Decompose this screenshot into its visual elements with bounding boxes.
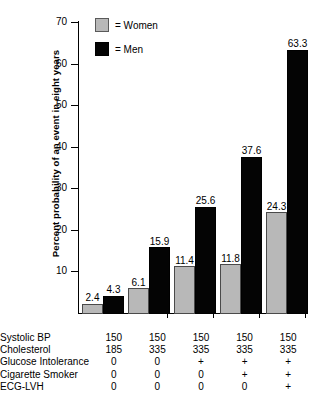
bar-chart: Percent probability of an event in eight… (0, 0, 310, 330)
y-tick-10 (71, 271, 78, 272)
row-label-systolic-bp: Systolic BP (0, 332, 92, 344)
y-tick-label-10: 10 (43, 266, 67, 276)
legend-label-men: = Men (115, 44, 143, 55)
cell-cholesterol-2: 335 (136, 344, 180, 356)
bar-women-4 (220, 264, 241, 313)
y-tick-label-70: 70 (43, 17, 67, 27)
bar-label-men-5: 63.3 (280, 38, 310, 49)
x-tick-4 (305, 314, 306, 318)
cell-systolic-bp-1: 150 (92, 332, 136, 344)
bar-men-1 (103, 296, 124, 314)
cell-cholesterol-5: 335 (266, 344, 310, 356)
cell-cigarette-smoker-3: 0 (179, 369, 223, 381)
cell-glucose-intolerance-5: + (266, 356, 310, 368)
bar-women-1 (82, 304, 103, 314)
x-tick-1 (167, 314, 168, 318)
x-tick-3 (259, 314, 260, 318)
bar-women-5 (266, 212, 287, 313)
y-tick-70 (71, 22, 78, 23)
bar-women-2 (128, 288, 149, 313)
table-row: ECG-LVH 0 0 0 0 + (0, 381, 310, 393)
y-tick-50 (71, 105, 78, 106)
cell-glucose-intolerance-1: 0 (92, 356, 136, 368)
cell-glucose-intolerance-3: + (179, 356, 223, 368)
cell-cholesterol-4: 335 (223, 344, 267, 356)
y-tick-label-40: 40 (43, 142, 67, 152)
row-label-glucose-intolerance: Glucose Intolerance (0, 356, 92, 368)
cell-systolic-bp-4: 150 (223, 332, 267, 344)
men-swatch-icon (95, 42, 109, 56)
cell-ecg-lvh-3: 0 (179, 381, 223, 393)
cell-glucose-intolerance-2: 0 (136, 356, 180, 368)
cell-cholesterol-3: 335 (179, 344, 223, 356)
y-tick-label-50: 50 (43, 100, 67, 110)
women-swatch-icon (95, 18, 109, 32)
cell-ecg-lvh-2: 0 (136, 381, 180, 393)
cell-cholesterol-1: 185 (92, 344, 136, 356)
bar-label-men-3: 25.6 (188, 195, 223, 206)
legend: = Women = Men (95, 18, 158, 66)
bar-label-men-4: 37.6 (234, 145, 269, 156)
y-tick-20 (71, 230, 78, 231)
cell-cigarette-smoker-1: 0 (92, 369, 136, 381)
row-label-cholesterol: Cholesterol (0, 344, 92, 356)
table-row: Glucose Intolerance 0 0 + + + (0, 356, 310, 368)
x-tick-2 (213, 314, 214, 318)
cell-systolic-bp-2: 150 (136, 332, 180, 344)
cell-systolic-bp-5: 150 (266, 332, 310, 344)
legend-item-women: = Women (95, 18, 158, 32)
cell-cigarette-smoker-4: + (223, 369, 267, 381)
row-label-cigarette-smoker: Cigarette Smoker (0, 369, 92, 381)
y-tick-label-20: 20 (43, 225, 67, 235)
y-tick-40 (71, 147, 78, 148)
y-tick-30 (71, 188, 78, 189)
bar-women-3 (174, 266, 195, 314)
y-tick-label-30: 30 (43, 183, 67, 193)
bar-label-men-2: 15.9 (142, 236, 177, 247)
cell-cigarette-smoker-5: + (266, 369, 310, 381)
cell-ecg-lvh-4: 0 (223, 381, 267, 393)
table-row: Cholesterol 185 335 335 335 335 (0, 344, 310, 356)
row-label-ecg-lvh: ECG-LVH (0, 381, 92, 393)
y-tick-label-60: 60 (43, 59, 67, 69)
risk-factor-table: Systolic BP 150 150 150 150 150 Choleste… (0, 332, 310, 393)
cell-ecg-lvh-5: + (266, 381, 310, 393)
cell-ecg-lvh-1: 0 (92, 381, 136, 393)
table-row: Cigarette Smoker 0 0 0 + + (0, 369, 310, 381)
legend-label-women: = Women (115, 20, 158, 31)
cell-glucose-intolerance-4: + (223, 356, 267, 368)
legend-item-men: = Men (95, 42, 158, 56)
table-row: Systolic BP 150 150 150 150 150 (0, 332, 310, 344)
cell-systolic-bp-3: 150 (179, 332, 223, 344)
bar-men-5 (287, 50, 308, 314)
bar-men-4 (241, 157, 262, 314)
cell-cigarette-smoker-2: 0 (136, 369, 180, 381)
y-tick-60 (71, 64, 78, 65)
